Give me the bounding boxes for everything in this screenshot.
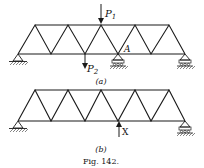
truss-b — [18, 90, 185, 121]
roller-support-right-b — [177, 121, 195, 136]
load-p1-label: P1 — [104, 8, 116, 21]
pin-support-left-b — [9, 121, 28, 132]
web-members-b — [18, 90, 185, 121]
roller-support-right-a — [177, 54, 195, 69]
truss-a — [18, 25, 185, 54]
pin-support-left-a — [9, 54, 28, 65]
web-members-a — [18, 25, 185, 54]
panel-b-label: (b) — [95, 145, 106, 154]
roller-support-middle-a — [110, 54, 128, 69]
figure-caption: Fig. 142. — [83, 157, 119, 166]
load-p2-label: P2 — [86, 63, 99, 76]
node-label-a: A — [123, 44, 131, 54]
reaction-x-label: X — [122, 127, 129, 137]
truss-figure: P1 P2 A (a) — [0, 0, 204, 168]
panel-a-label: (a) — [95, 77, 106, 86]
